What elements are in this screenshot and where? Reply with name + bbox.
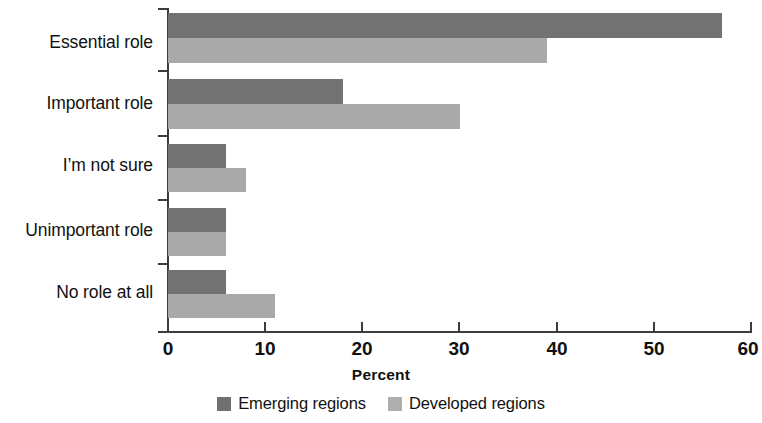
x-axis-ticklabel-40: 40 [527, 338, 587, 360]
bar-emerging-im-not-sure [168, 144, 226, 168]
x-axis-ticklabel-50: 50 [624, 338, 684, 360]
y-axis-label-2: I’m not sure [63, 155, 153, 175]
y-axis-tick-top [158, 8, 168, 10]
bar-emerging-no-role-at-all [168, 270, 226, 294]
chart-legend: Emerging regions Developed regions [0, 394, 762, 413]
bar-developed-no-role-at-all [168, 294, 275, 318]
bar-emerging-unimportant-role [168, 208, 226, 232]
y-axis-tick-2 [158, 135, 168, 137]
bar-developed-im-not-sure [168, 168, 246, 192]
y-axis-label-1: Important role [46, 93, 153, 113]
x-axis-ticklabel-0: 0 [138, 338, 198, 360]
plot-area [168, 8, 751, 332]
y-axis-tick-1 [158, 70, 168, 72]
x-axis-ticklabel-60: 60 [718, 338, 762, 360]
legend-item-emerging-regions: Emerging regions [217, 394, 366, 413]
x-axis-ticklabel-20: 20 [332, 338, 392, 360]
y-axis-label-4: No role at all [56, 282, 153, 302]
x-axis-ticklabel-10: 10 [235, 338, 295, 360]
y-axis-tick-4 [158, 263, 168, 265]
bar-emerging-essential-role [168, 13, 722, 38]
legend-label-developed: Developed regions [409, 394, 545, 413]
bar-developed-essential-role [168, 38, 547, 63]
x-axis-ticklabel-30: 30 [429, 338, 489, 360]
y-axis-label-0: Essential role [49, 32, 153, 52]
legend-item-developed-regions: Developed regions [388, 394, 545, 413]
y-axis-labels: Essential role Important role I’m not su… [0, 0, 153, 423]
x-axis-title: Percent [0, 366, 762, 384]
bar-chart: Essential role Important role I’m not su… [0, 0, 762, 423]
bar-developed-unimportant-role [168, 232, 226, 256]
legend-label-emerging: Emerging regions [238, 394, 366, 413]
y-axis-tick-3 [158, 199, 168, 201]
bar-developed-important-role [168, 104, 460, 129]
legend-swatch-icon-developed [388, 397, 402, 411]
y-axis-label-3: Unimportant role [25, 220, 153, 240]
legend-swatch-icon-emerging [217, 397, 231, 411]
bar-emerging-important-role [168, 79, 343, 104]
